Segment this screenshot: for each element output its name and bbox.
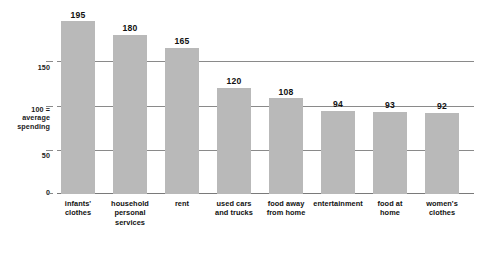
y-tick-150 — [46, 61, 53, 62]
bar-used-cars-and-trucks — [217, 88, 251, 194]
category-label-womens-clothes: women's clothes — [411, 199, 473, 218]
y-axis-label-150: 150 — [4, 64, 50, 73]
bar-value-food-at-home: 93 — [360, 100, 420, 110]
bar-value-used-cars-and-trucks: 120 — [204, 76, 264, 86]
bar-food-away-from-home — [269, 98, 303, 194]
y-axis-label-50: 50 — [4, 152, 50, 161]
y-axis-label-0: 0 — [4, 189, 50, 198]
bar-food-at-home — [373, 112, 407, 194]
bar-value-household-personal-services: 180 — [100, 23, 160, 33]
bar-infants-clothes — [61, 21, 95, 194]
bar-womens-clothes — [425, 113, 459, 195]
bar-entertainment — [321, 111, 355, 194]
bar-value-food-away-from-home: 108 — [256, 87, 316, 97]
bar-value-entertainment: 94 — [308, 99, 368, 109]
y-tick-50 — [46, 150, 53, 151]
bar-value-womens-clothes: 92 — [412, 101, 472, 111]
bar-value-infants-clothes: 195 — [48, 10, 108, 20]
y-tick-100 — [46, 106, 53, 107]
bar-value-rent: 165 — [152, 36, 212, 46]
bar-chart: 150 100 = average spending 50 0 195 180 … — [0, 0, 482, 254]
y-axis-label-100-average-spending: 100 = average spending — [4, 106, 50, 132]
plot-area: 195 180 165 120 108 94 93 92 — [57, 8, 474, 194]
bar-rent — [165, 48, 199, 194]
y-tick-0 — [46, 193, 53, 194]
bar-household-personal-services — [113, 35, 147, 194]
